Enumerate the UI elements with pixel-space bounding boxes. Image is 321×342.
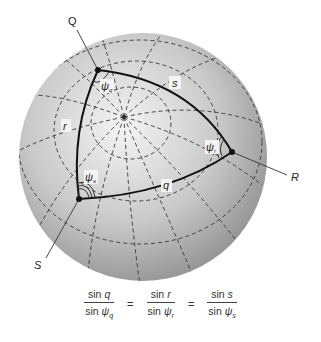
vertex-label-q: Q [68, 15, 77, 27]
pole-point [122, 115, 126, 119]
equals-sign: = [127, 298, 133, 310]
vertex-s-point [76, 196, 82, 202]
sphere [19, 33, 267, 281]
side-label-q: q [163, 179, 170, 191]
vertex-label-r: R [291, 171, 299, 183]
equals-sign: = [188, 298, 194, 310]
sine-rule-equation: sin q sin ψq = sin r sin ψr = sin s sin … [0, 288, 321, 319]
fraction-s: sin s sin ψs [204, 288, 240, 319]
fraction-q: sin q sin ψq [81, 288, 117, 319]
side-label-s: s [172, 77, 178, 89]
fraction-r: sin r sin ψr [144, 288, 178, 319]
vertex-r-point [229, 149, 235, 155]
vertex-label-s: S [34, 259, 42, 271]
vertex-q-point [95, 67, 101, 73]
